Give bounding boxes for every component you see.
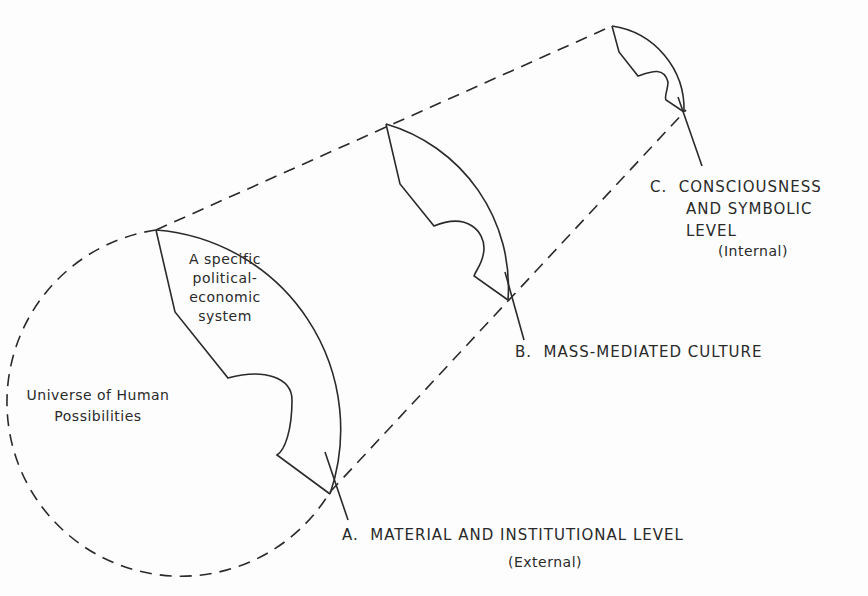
level-a-letter: A. <box>342 526 359 544</box>
level-a-qualifier: (External) <box>508 555 582 569</box>
universe-label: Universe of Human Possibilities <box>18 385 178 427</box>
system-label-line: system <box>180 307 270 326</box>
system-label-line: economic <box>180 288 270 307</box>
level-c-line-1: C. CONSCIOUSNESS <box>650 176 822 198</box>
level-a-label: A. MATERIAL AND INSTITUTIONAL LEVEL <box>342 528 684 543</box>
level-c-title-line: CONSCIOUSNESS <box>679 178 822 196</box>
level-b-title: MASS-MEDIATED CULTURE <box>544 343 763 361</box>
level-a-title: MATERIAL AND INSTITUTIONAL LEVEL <box>370 526 684 544</box>
level-c-title-line: AND SYMBOLIC <box>650 198 822 220</box>
diagram-canvas: A specific political- economic system Un… <box>0 0 868 596</box>
system-label: A specific political- economic system <box>180 250 270 326</box>
level-b-label: B. MASS-MEDIATED CULTURE <box>515 345 763 360</box>
system-label-line: A specific <box>180 250 270 269</box>
level-c-label: C. CONSCIOUSNESS AND SYMBOLIC LEVEL <box>650 176 822 242</box>
level-c-shape <box>612 26 702 166</box>
level-b-letter: B. <box>515 343 532 361</box>
level-b-shape <box>386 124 524 340</box>
universe-label-line: Universe of Human <box>18 385 178 406</box>
level-c-letter: C. <box>650 178 667 196</box>
universe-label-line: Possibilities <box>18 406 178 427</box>
diagram-graphics <box>0 0 868 596</box>
level-c-title-line: LEVEL <box>650 220 822 242</box>
system-label-line: political- <box>180 269 270 288</box>
cone-outline <box>7 26 686 576</box>
level-c-qualifier: (Internal) <box>718 244 788 258</box>
